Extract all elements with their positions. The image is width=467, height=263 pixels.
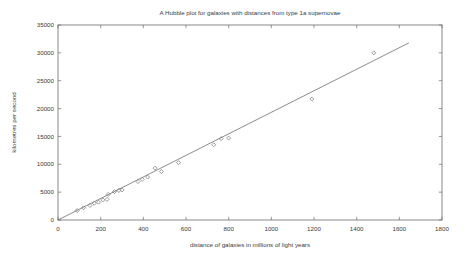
data-point-marker (372, 51, 376, 55)
y-tick-label: 35000 (37, 21, 55, 28)
data-point-marker (159, 170, 163, 174)
y-tick-label: 15000 (37, 133, 55, 140)
data-point-marker (97, 200, 101, 204)
x-tick-label: 600 (181, 225, 192, 232)
x-tick-label: 1600 (392, 225, 406, 232)
y-tick-label: 25000 (37, 77, 55, 84)
y-tick-label: 0 (51, 216, 55, 223)
x-tick-label: 1000 (264, 225, 278, 232)
data-point-marker (177, 161, 181, 165)
x-tick-label: 1800 (435, 225, 449, 232)
y-tick-label: 10000 (37, 160, 55, 167)
fit-line (58, 43, 409, 220)
plot-area: 0200400600800100012001400160018000500010… (37, 21, 450, 232)
data-point-marker (101, 198, 105, 202)
x-tick-label: 200 (96, 225, 107, 232)
data-point-marker (310, 97, 314, 101)
data-point-marker (153, 166, 157, 170)
x-tick-label: 800 (224, 225, 235, 232)
data-point-marker (212, 143, 216, 147)
x-tick-label: 400 (138, 225, 149, 232)
data-point-marker (227, 136, 231, 140)
x-tick-label: 1200 (307, 225, 321, 232)
y-tick-label: 30000 (37, 49, 55, 56)
y-axis-label: kilometres per second (10, 92, 17, 153)
y-tick-label: 20000 (37, 105, 55, 112)
hubble-plot-window: A Hubble plot for galaxies with distance… (0, 0, 467, 263)
hubble-scatter-chart: A Hubble plot for galaxies with distance… (0, 0, 467, 263)
x-tick-label: 0 (56, 225, 60, 232)
data-point-marker (105, 197, 109, 201)
x-tick-label: 1400 (350, 225, 364, 232)
chart-title: A Hubble plot for galaxies with distance… (160, 9, 341, 16)
x-axis-label: distance of galaxies in millions of ligh… (190, 241, 310, 248)
y-tick-label: 5000 (40, 188, 54, 195)
